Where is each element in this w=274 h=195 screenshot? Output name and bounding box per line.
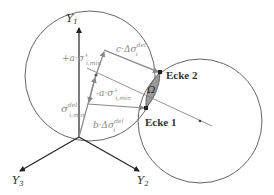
yield-surface-diagram: Y1 Y3 Y2 +a·σ+i,min c·Δσdeli -a·σ+i,min … <box>0 0 274 195</box>
vector-minus-alpha-sigma <box>89 78 95 102</box>
axis-y2 <box>79 137 139 171</box>
right-center-dot <box>199 120 202 123</box>
vector-b-delta-sigma <box>88 104 144 108</box>
label-plus-alpha-sigma: +a·σ+i,min <box>62 51 101 66</box>
label-y3: Y3 <box>12 174 24 188</box>
label-omega: Ω <box>146 84 155 95</box>
base-point <box>95 74 98 77</box>
left-circle <box>25 11 155 141</box>
label-ecke1: Ecke 1 <box>145 116 176 128</box>
label-minus-alpha-sigma: -a·σ+i,min <box>96 86 131 101</box>
label-b-delta-sigma: b·Δσdeli <box>93 117 124 133</box>
label-c-delta-sigma: c·Δσdeli <box>116 41 146 57</box>
ecke1-point <box>144 106 148 110</box>
ecke2-point <box>158 70 162 74</box>
label-ecke2: Ecke 2 <box>166 69 198 81</box>
axis-y3 <box>20 137 79 171</box>
label-sigma-del-min: σdeli,min <box>61 101 85 118</box>
label-y1: Y1 <box>66 12 78 26</box>
label-y2: Y2 <box>137 174 149 188</box>
